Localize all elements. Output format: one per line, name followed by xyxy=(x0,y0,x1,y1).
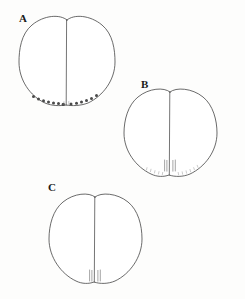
panel-b: B xyxy=(124,78,217,176)
panel-b-outline xyxy=(124,89,217,176)
figure-container: A xyxy=(0,0,245,299)
panel-c-outline xyxy=(49,194,142,283)
panel-b-midline xyxy=(169,92,170,175)
panel-a-dot xyxy=(90,97,93,100)
panel-a-dot xyxy=(80,101,83,104)
panel-a: A xyxy=(19,12,115,106)
panel-b-label: B xyxy=(141,78,149,90)
panel-a-dot xyxy=(52,101,55,104)
panel-a-dot xyxy=(85,99,88,102)
panel-a-dot xyxy=(95,94,98,97)
panel-a-dot xyxy=(57,102,60,105)
panel-a-dot xyxy=(32,95,35,98)
panel-a-dot xyxy=(62,103,65,106)
panel-a-label: A xyxy=(19,12,27,24)
panel-a-dot xyxy=(70,103,73,106)
panel-c: C xyxy=(48,181,142,283)
panel-c-label: C xyxy=(48,181,56,193)
panel-a-dot xyxy=(37,98,40,101)
panel-a-outline xyxy=(19,16,115,105)
panel-a-dot xyxy=(42,99,45,102)
figure-illustration: A xyxy=(0,0,245,299)
panel-a-dot xyxy=(47,101,50,104)
panel-a-dot xyxy=(75,102,78,105)
